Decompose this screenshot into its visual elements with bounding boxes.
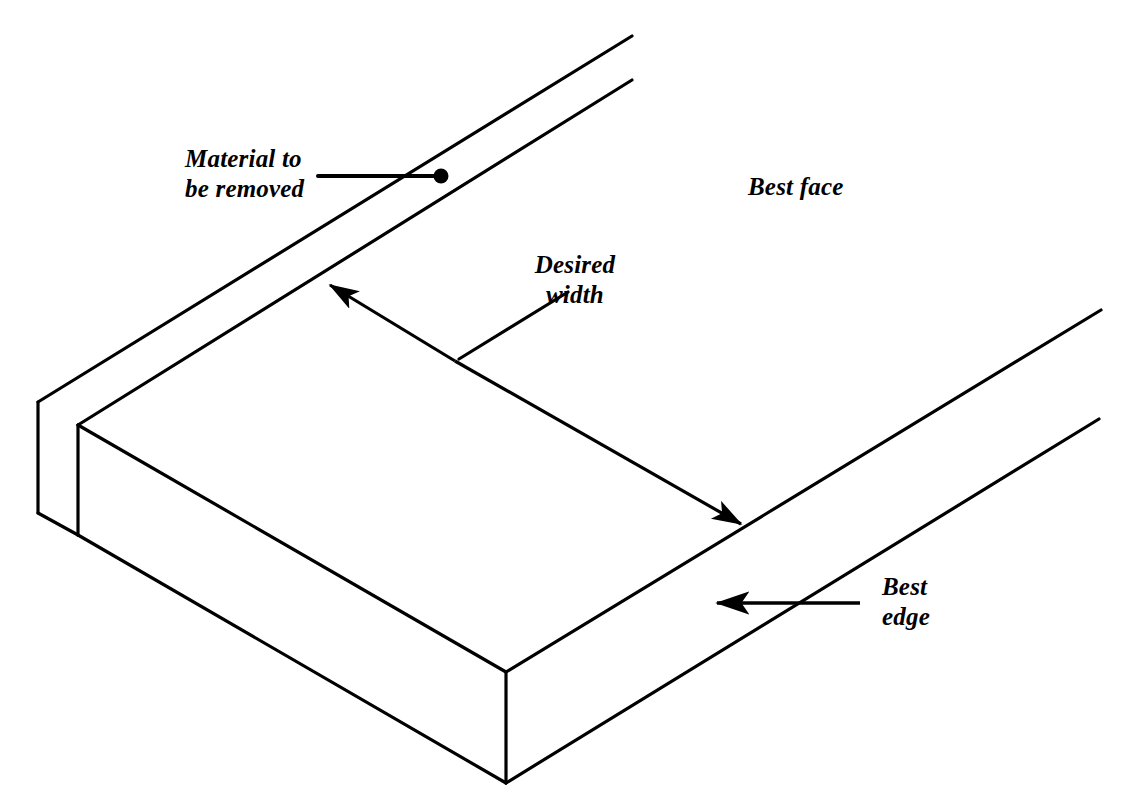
label-material-to-be-removed: Material to be removed (185, 144, 304, 203)
edge-front-bottom-right (506, 419, 1099, 783)
label-best-edge: Best edge (882, 572, 930, 631)
edge-front-bottom-left (78, 535, 506, 783)
edge-end-bottom-slant (38, 513, 78, 535)
board-illustration (0, 0, 1137, 808)
material-to-be-removed-leader (318, 169, 449, 184)
desired-width-dimension-lower (455, 361, 741, 524)
label-best-face: Best face (748, 172, 844, 202)
edge-top-near-left (78, 425, 506, 672)
edge-top-near-right (506, 310, 1101, 672)
board-diagram-figure: Material to be removed Best face Desired… (0, 0, 1137, 808)
material-leader-dot (434, 169, 449, 184)
desired-width-leader (330, 285, 741, 524)
desired-width-dimension-upper (330, 285, 455, 361)
edge-top-far-left (38, 36, 632, 402)
label-desired-width: Desired width (535, 250, 616, 309)
